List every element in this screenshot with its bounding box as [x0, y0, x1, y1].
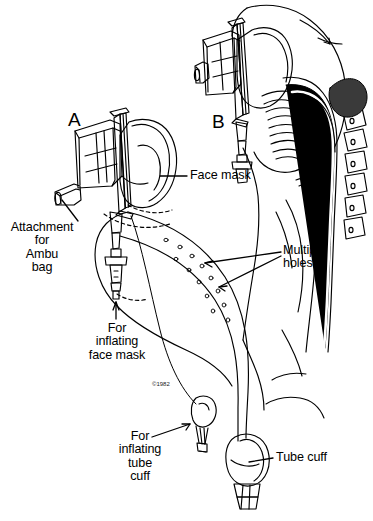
figure-illustration: A B Face mask Attachment for Ambu bag Fo… [0, 0, 373, 521]
panel-b-pointers [300, 20, 342, 44]
label-for-inflating-tube-cuff: For inflating tube cuff [110, 430, 170, 483]
cuff-pilot-tube [131, 216, 196, 404]
panel-b-airway-column [286, 85, 334, 349]
tube-cuff [226, 434, 269, 509]
label-attachment-ambu-bag: Attachment for Ambu bag [2, 221, 82, 274]
cuff-pilot-balloon [191, 396, 216, 452]
panel-letter-b: B [212, 112, 225, 132]
leader-lines [62, 176, 281, 462]
neck-contour [266, 330, 324, 418]
label-tube-cuff: Tube cuff [276, 451, 327, 464]
label-for-inflating-face-mask: For inflating face mask [76, 322, 158, 362]
leader-multiple-holes-lower [219, 256, 281, 287]
face-mask-inflation-valve [105, 212, 127, 299]
label-face-mask: Face mask [190, 169, 251, 182]
label-multiple-holes: Multiple holes [283, 244, 326, 271]
mask-faceplate [114, 113, 131, 212]
leader-attachment-ambu [62, 200, 78, 221]
ambu-attachment-port [55, 184, 81, 205]
occiput-shading [329, 79, 367, 117]
copyright-mark: ©1982 [152, 381, 170, 387]
panel-letter-a: A [68, 110, 81, 130]
